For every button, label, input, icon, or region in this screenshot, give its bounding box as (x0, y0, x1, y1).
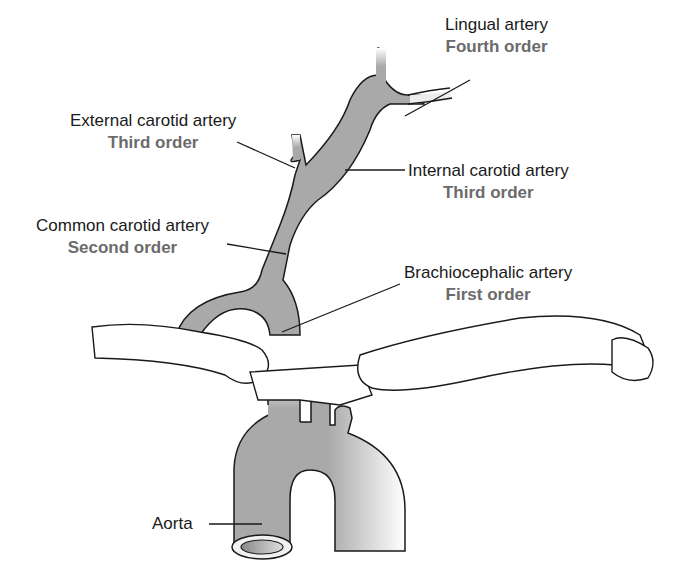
common-carotid-name: Common carotid artery (36, 215, 209, 237)
aorta-name: Aorta (152, 513, 193, 535)
label-common-carotid-artery: Common carotid artery Second order (36, 215, 209, 259)
label-internal-carotid-artery: Internal carotid artery Third order (408, 160, 569, 204)
external-carotid-order: Third order (70, 132, 236, 154)
internal-carotid-name: Internal carotid artery (408, 160, 569, 182)
lingual-artery-name: Lingual artery (445, 14, 548, 36)
label-lingual-artery: Lingual artery Fourth order (445, 14, 548, 58)
label-external-carotid-artery: External carotid artery Third order (70, 110, 236, 154)
common-carotid-order: Second order (36, 237, 209, 259)
artery-order-diagram: Lingual artery Fourth order External car… (0, 0, 691, 581)
brachiocephalic-name: Brachiocephalic artery (404, 262, 572, 284)
internal-carotid-order: Third order (408, 182, 569, 204)
label-brachiocephalic-artery: Brachiocephalic artery First order (404, 262, 572, 306)
bones (92, 316, 653, 405)
lingual-artery-order: Fourth order (445, 36, 548, 58)
brachiocephalic-order: First order (404, 284, 572, 306)
label-aorta: Aorta (152, 513, 193, 535)
external-carotid-name: External carotid artery (70, 110, 236, 132)
artery-illustration (0, 0, 691, 581)
